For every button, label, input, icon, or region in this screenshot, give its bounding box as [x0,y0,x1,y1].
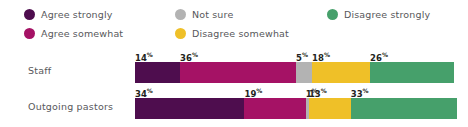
chart-row-staff: Staff 14%36%5%18%26% [0,49,468,85]
value-label-layer: 14%36%5%18%26% [135,49,457,62]
bar-segment[interactable] [135,98,244,119]
bar-segment[interactable] [296,62,312,83]
bar-segment[interactable] [370,62,454,83]
legend-column-1: Agree stronglyAgree somewhat [24,6,123,44]
bar-track [135,62,457,83]
bar-segment[interactable] [244,98,305,119]
legend-dot-icon [175,9,186,20]
value-label-layer: 34%19%1%13%33% [135,85,457,98]
legend-item[interactable]: Agree somewhat [24,25,123,42]
chart-legend: Agree stronglyAgree somewhat Not sureDis… [0,0,468,44]
legend-dot-icon [24,9,35,20]
bar-segment[interactable] [351,98,457,119]
legend-dot-icon [175,28,186,39]
legend-item[interactable]: Not sure [175,6,289,23]
legend-item[interactable]: Agree strongly [24,6,123,23]
legend-item[interactable]: Disagree somewhat [175,25,289,42]
stacked-bar-chart: Staff 14%36%5%18%26% Outgoing pastors 34… [0,44,468,127]
legend-item-label: Disagree strongly [344,9,430,20]
legend-column-3: Disagree strongly [327,6,430,25]
bar-segment[interactable] [135,62,180,83]
bar-track [135,98,457,119]
legend-item[interactable]: Disagree strongly [327,6,430,23]
legend-item-label: Disagree somewhat [192,28,289,39]
row-label: Outgoing pastors [28,101,128,112]
bar-segment[interactable] [309,98,351,119]
legend-item-label: Not sure [192,9,233,20]
bar-segment[interactable] [180,62,296,83]
chart-row-outgoing-pastors: Outgoing pastors 34%19%1%13%33% [0,85,468,121]
legend-column-2: Not sureDisagree somewhat [175,6,289,44]
legend-item-label: Agree strongly [41,9,113,20]
bar-segment[interactable] [312,62,370,83]
legend-dot-icon [327,9,338,20]
row-label: Staff [28,65,128,76]
legend-dot-icon [24,28,35,39]
legend-item-label: Agree somewhat [41,28,123,39]
